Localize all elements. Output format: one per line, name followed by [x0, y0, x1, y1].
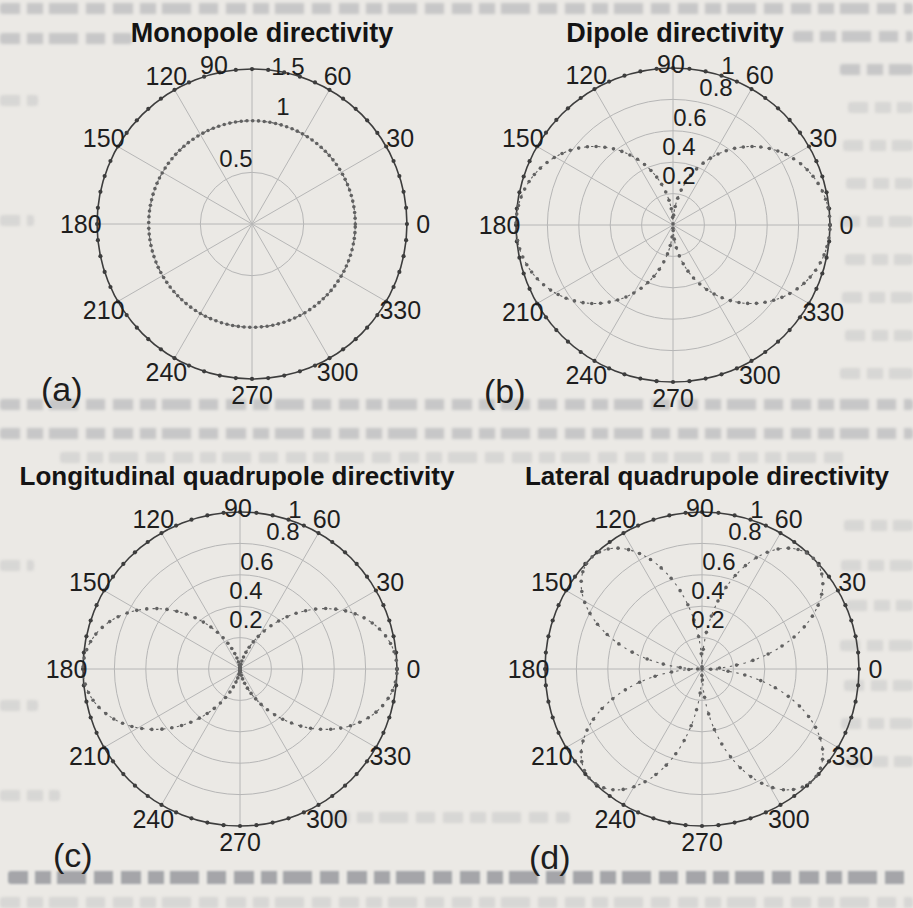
svg-text:0: 0 [869, 655, 883, 683]
panel-letter-a: (a) [41, 370, 83, 409]
svg-text:210: 210 [502, 298, 544, 326]
svg-text:240: 240 [146, 358, 188, 386]
svg-text:330: 330 [802, 298, 844, 326]
svg-text:1: 1 [750, 496, 763, 523]
panel-letter-b: (b) [484, 372, 526, 411]
angle-tick-labels: 0306090120150180210240270300330 [508, 494, 883, 857]
svg-text:90: 90 [686, 494, 714, 522]
svg-text:30: 30 [809, 124, 837, 152]
svg-text:1: 1 [288, 496, 301, 523]
svg-text:90: 90 [200, 51, 228, 79]
svg-text:90: 90 [224, 494, 252, 522]
svg-text:120: 120 [146, 62, 188, 90]
plot-title-dipole: Dipole directivity [566, 18, 784, 49]
svg-text:60: 60 [746, 61, 774, 89]
plot-title-longitudinal-quadrupole: Longitudinal quadrupole directivity [20, 461, 455, 492]
svg-text:150: 150 [502, 124, 544, 152]
svg-text:300: 300 [739, 361, 781, 389]
svg-text:210: 210 [83, 296, 125, 324]
svg-text:0.5: 0.5 [219, 145, 252, 172]
polar-plot-c: 03060901201501802102402703003300.20.40.6… [46, 494, 421, 857]
svg-text:330: 330 [379, 296, 421, 324]
svg-text:300: 300 [768, 805, 810, 833]
svg-text:210: 210 [69, 742, 111, 770]
polar-grid [97, 69, 407, 379]
svg-text:0: 0 [416, 210, 430, 238]
svg-text:1.5: 1.5 [271, 53, 304, 80]
svg-text:0.2: 0.2 [662, 162, 695, 189]
svg-text:240: 240 [132, 805, 174, 833]
angle-tick-labels: 0306090120150180210240270300330 [46, 494, 421, 857]
angle-tick-labels: 0306090120150180210240270300330 [479, 50, 854, 413]
svg-text:180: 180 [508, 655, 550, 683]
svg-text:150: 150 [83, 124, 125, 152]
svg-text:0.6: 0.6 [240, 548, 273, 575]
plot-title-lateral-quadrupole: Lateral quadrupole directivity [525, 461, 889, 492]
svg-text:240: 240 [565, 361, 607, 389]
panel-letter-d: (d) [529, 838, 571, 877]
svg-text:30: 30 [376, 568, 404, 596]
svg-text:0.4: 0.4 [229, 577, 262, 604]
svg-text:30: 30 [838, 568, 866, 596]
directivity-polar-figure: 03060901201501802102402703003300.511.503… [0, 0, 913, 908]
svg-text:1: 1 [721, 52, 734, 79]
svg-text:0.4: 0.4 [691, 577, 724, 604]
plot-title-monopole: Monopole directivity [131, 18, 394, 49]
svg-text:0.2: 0.2 [229, 606, 262, 633]
svg-text:330: 330 [369, 742, 411, 770]
svg-text:300: 300 [306, 805, 348, 833]
svg-text:0.4: 0.4 [662, 133, 695, 160]
svg-text:270: 270 [681, 828, 723, 856]
svg-text:60: 60 [313, 505, 341, 533]
scanned-book-page: 03060901201501802102402703003300.511.503… [0, 0, 913, 908]
svg-text:30: 30 [386, 124, 414, 152]
svg-text:180: 180 [479, 211, 521, 239]
svg-text:60: 60 [775, 505, 803, 533]
svg-text:90: 90 [657, 50, 685, 78]
svg-text:0: 0 [840, 211, 854, 239]
svg-text:0.6: 0.6 [673, 104, 706, 131]
svg-text:1: 1 [276, 93, 289, 120]
svg-text:120: 120 [132, 505, 174, 533]
svg-text:0: 0 [407, 655, 421, 683]
svg-text:150: 150 [69, 568, 111, 596]
svg-text:300: 300 [317, 358, 359, 386]
svg-text:120: 120 [565, 61, 607, 89]
polar-plot-a: 03060901201501802102402703003300.511.5 [60, 51, 430, 409]
svg-text:270: 270 [652, 384, 694, 412]
svg-text:210: 210 [531, 742, 573, 770]
angle-tick-labels: 0306090120150180210240270300330 [60, 51, 430, 409]
svg-text:330: 330 [831, 742, 873, 770]
polar-plot-d: 03060901201501802102402703003300.20.40.6… [508, 494, 883, 857]
polar-plot-b: 03060901201501802102402703003300.20.40.6… [479, 50, 854, 413]
svg-text:60: 60 [324, 62, 352, 90]
svg-text:0.6: 0.6 [702, 548, 735, 575]
svg-text:120: 120 [594, 505, 636, 533]
svg-text:180: 180 [60, 210, 102, 238]
panel-letter-c: (c) [53, 836, 93, 875]
svg-text:0.2: 0.2 [691, 606, 724, 633]
svg-text:150: 150 [531, 568, 573, 596]
svg-text:270: 270 [231, 381, 273, 409]
svg-text:240: 240 [594, 805, 636, 833]
svg-text:270: 270 [219, 828, 261, 856]
svg-text:180: 180 [46, 655, 88, 683]
